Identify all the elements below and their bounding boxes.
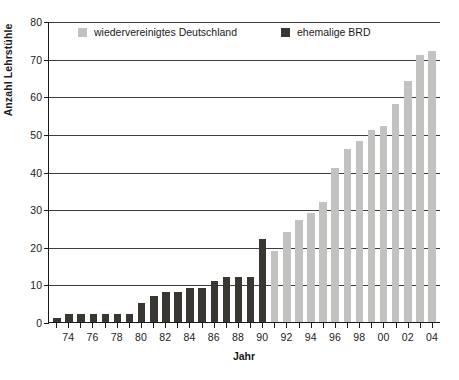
x-tick-mark	[414, 323, 426, 330]
bar-cell	[208, 22, 220, 322]
x-tick-label: 76	[86, 331, 98, 347]
bar	[319, 202, 326, 322]
x-tick-mark	[232, 323, 244, 330]
x-tick-label	[365, 331, 377, 347]
x-tick-mark	[99, 323, 111, 330]
bar-cell	[63, 22, 75, 322]
x-tick-mark	[50, 323, 62, 330]
bar	[283, 232, 290, 322]
bar-cell	[75, 22, 87, 322]
x-tick-mark	[390, 323, 402, 330]
bar-cell	[160, 22, 172, 322]
bar	[307, 213, 314, 322]
bar-cell	[257, 22, 269, 322]
x-tick-label: 04	[426, 331, 438, 347]
x-tick-label: 80	[135, 331, 147, 347]
bar	[65, 314, 72, 322]
bar-cell	[281, 22, 293, 322]
bar-chart: Anzahl Lehrstühle wiedervereinigtes Deut…	[0, 0, 459, 380]
x-tick-mark	[135, 323, 147, 330]
bar-cell	[245, 22, 257, 322]
x-tick-label: 98	[353, 331, 365, 347]
x-tick-mark	[402, 323, 414, 330]
bar	[295, 220, 302, 322]
x-tick-label: 84	[183, 331, 195, 347]
bar	[150, 296, 157, 322]
x-tick-mark	[111, 323, 123, 330]
x-tick-mark	[86, 323, 98, 330]
bar	[114, 314, 121, 322]
x-tick-mark	[377, 323, 389, 330]
plot-area: 01020304050607080	[48, 22, 440, 323]
y-tick-label: 10	[30, 279, 42, 291]
x-tick-mark	[74, 323, 86, 330]
x-tick-mark	[329, 323, 341, 330]
y-tick-label: 50	[30, 129, 42, 141]
bar-cell	[414, 22, 426, 322]
x-tick-label	[50, 331, 62, 347]
bar-cell	[353, 22, 365, 322]
bar-cell	[402, 22, 414, 322]
x-tick-mark	[159, 323, 171, 330]
y-tick-label: 20	[30, 242, 42, 254]
x-tick-label	[147, 331, 159, 347]
y-tick-label: 40	[30, 167, 42, 179]
bar	[331, 168, 338, 322]
bar-cell	[293, 22, 305, 322]
bar-cell	[426, 22, 438, 322]
bar-cell	[172, 22, 184, 322]
bar-cell	[148, 22, 160, 322]
x-tick-mark	[62, 323, 74, 330]
x-tick-mark	[353, 323, 365, 330]
x-tick-mark	[293, 323, 305, 330]
x-tick-label	[220, 331, 232, 347]
bar	[404, 81, 411, 322]
x-axis-ticks	[48, 323, 440, 330]
bar	[102, 314, 109, 322]
bar-cell	[378, 22, 390, 322]
bar	[162, 292, 169, 322]
bar-cell	[341, 22, 353, 322]
bar-group	[49, 22, 440, 322]
x-tick-label: 02	[402, 331, 414, 347]
x-tick-label	[99, 331, 111, 347]
bar	[186, 288, 193, 322]
x-tick-label: 88	[232, 331, 244, 347]
bar	[416, 55, 423, 322]
x-tick-label: 74	[62, 331, 74, 347]
bar-cell	[51, 22, 63, 322]
bar	[174, 292, 181, 322]
bar-cell	[305, 22, 317, 322]
bar-cell	[365, 22, 377, 322]
x-tick-label: 00	[377, 331, 389, 347]
x-tick-label	[293, 331, 305, 347]
bar	[223, 277, 230, 322]
x-tick-mark	[256, 323, 268, 330]
x-tick-label: 94	[305, 331, 317, 347]
y-axis-title: Anzahl Lehrstühle	[2, 10, 14, 130]
x-tick-label	[74, 331, 86, 347]
x-tick-label	[390, 331, 402, 347]
x-tick-mark	[208, 323, 220, 330]
bar	[368, 130, 375, 322]
bar-cell	[220, 22, 232, 322]
y-tick-label: 30	[30, 204, 42, 216]
x-tick-mark	[280, 323, 292, 330]
x-tick-mark	[341, 323, 353, 330]
x-tick-label: 78	[111, 331, 123, 347]
bar-cell	[196, 22, 208, 322]
bar	[138, 303, 145, 322]
x-tick-label	[317, 331, 329, 347]
x-tick-mark	[305, 323, 317, 330]
bar-cell	[184, 22, 196, 322]
x-tick-mark	[183, 323, 195, 330]
y-tick-label: 0	[36, 317, 42, 329]
bar-cell	[87, 22, 99, 322]
y-axis-title-container: Anzahl Lehrstühle	[0, 0, 26, 380]
x-tick-label: 90	[256, 331, 268, 347]
bar	[356, 141, 363, 322]
x-tick-label: 96	[329, 331, 341, 347]
x-tick-label	[341, 331, 353, 347]
x-tick-mark	[123, 323, 135, 330]
x-tick-label	[196, 331, 208, 347]
